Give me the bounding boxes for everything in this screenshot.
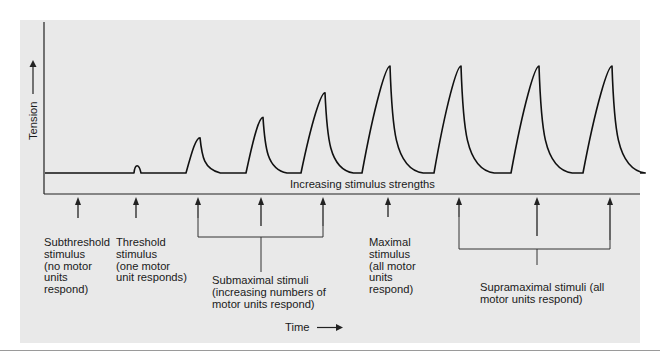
stimulus-arrows bbox=[75, 197, 613, 240]
label-line: stimulus bbox=[44, 248, 85, 260]
y-axis-label-group: Tension bbox=[27, 60, 39, 140]
stimulus-arrow-icon bbox=[534, 197, 540, 205]
label-line: (increasing numbers of bbox=[212, 286, 327, 298]
stimulus-arrow-icon bbox=[456, 197, 462, 205]
label-line: unit responds) bbox=[116, 271, 187, 283]
label-line: respond) bbox=[44, 283, 88, 295]
x-axis-arrow-icon bbox=[336, 324, 343, 331]
label-supramaximal: Supramaximal stimuli (allmotor units res… bbox=[480, 281, 604, 305]
submaximal-bracket bbox=[198, 218, 323, 272]
label-maximal: Maximalstimulus(all motorunitsrespond) bbox=[369, 236, 416, 295]
label-line: Threshold bbox=[116, 236, 166, 248]
label-line: respond) bbox=[369, 283, 413, 295]
label-submaximal: Submaximal stimuli(increasing numbers of… bbox=[212, 274, 327, 310]
label-line: motor units respond) bbox=[212, 298, 315, 310]
axis-caption: Increasing stimulus strengths bbox=[290, 178, 435, 190]
label-line: motor units respond) bbox=[480, 293, 583, 305]
label-line: (one motor bbox=[116, 260, 170, 272]
supramaximal-bracket bbox=[459, 217, 610, 265]
label-line: Submaximal stimuli bbox=[212, 274, 308, 286]
motor-unit-recruitment-diagram: Tension Increasing stimulus strengths Su… bbox=[0, 0, 660, 358]
x-axis-label: Time bbox=[285, 321, 309, 333]
label-line: stimulus bbox=[116, 248, 157, 260]
stimulus-arrow-icon bbox=[258, 197, 264, 205]
y-axis-label: Tension bbox=[27, 101, 39, 140]
label-subthreshold: Subthresholdstimulus(no motorunitsrespon… bbox=[44, 236, 110, 295]
label-threshold: Thresholdstimulus(one motorunit responds… bbox=[116, 236, 187, 283]
label-line: stimulus bbox=[369, 248, 410, 260]
y-axis-arrow-icon bbox=[30, 60, 37, 67]
stimulus-labels: Subthresholdstimulus(no motorunitsrespon… bbox=[44, 236, 604, 310]
stimulus-arrow-icon bbox=[133, 197, 139, 205]
stimulus-arrow-icon bbox=[607, 197, 613, 205]
label-line: (all motor bbox=[369, 260, 416, 272]
label-line: Subthreshold bbox=[44, 236, 110, 248]
stimulus-arrow-icon bbox=[320, 197, 326, 205]
stimulus-arrow-icon bbox=[385, 197, 391, 205]
stimulus-arrow-icon bbox=[75, 197, 81, 205]
stimulus-arrow-icon bbox=[195, 197, 201, 205]
label-line: units bbox=[44, 271, 68, 283]
label-line: Maximal bbox=[369, 236, 411, 248]
label-line: (no motor bbox=[44, 260, 92, 272]
tension-trace bbox=[45, 66, 645, 173]
label-line: units bbox=[369, 271, 393, 283]
label-line: Supramaximal stimuli (all bbox=[480, 281, 604, 293]
